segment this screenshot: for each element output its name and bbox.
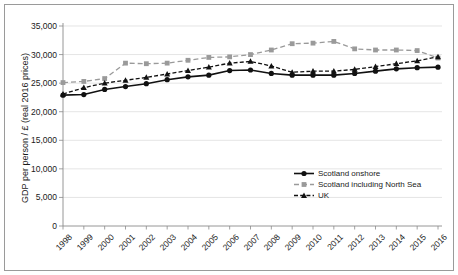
legend-swatch-icon bbox=[293, 168, 315, 179]
data-point bbox=[206, 55, 211, 60]
data-point bbox=[248, 52, 253, 57]
data-point bbox=[415, 65, 420, 70]
plot-area bbox=[5, 5, 455, 272]
legend-label: UK bbox=[318, 191, 329, 200]
chart-figure: GDP per person / £ (real 2016 prices) 35… bbox=[0, 0, 458, 275]
y-tick-label: 10,000 bbox=[11, 164, 57, 174]
data-point bbox=[227, 54, 232, 59]
y-tick-label: 0 bbox=[11, 221, 57, 231]
data-point bbox=[123, 61, 128, 66]
data-point bbox=[144, 81, 149, 86]
data-point bbox=[186, 58, 191, 63]
data-point bbox=[269, 71, 274, 76]
data-point bbox=[61, 80, 66, 85]
chart-legend: Scotland onshoreScotland including North… bbox=[293, 168, 421, 201]
legend-swatch-icon bbox=[293, 190, 315, 201]
data-point bbox=[185, 74, 190, 79]
y-tick-label: 20,000 bbox=[11, 107, 57, 117]
data-point bbox=[290, 41, 295, 46]
legend-label: Scotland including North Sea bbox=[318, 180, 421, 189]
data-point bbox=[268, 63, 274, 69]
data-point bbox=[269, 48, 274, 53]
y-tick-label: 35,000 bbox=[11, 21, 57, 31]
data-point bbox=[227, 60, 233, 66]
data-point bbox=[352, 46, 357, 51]
data-point bbox=[81, 92, 86, 97]
data-point bbox=[81, 85, 87, 91]
data-series-group bbox=[60, 39, 441, 98]
legend-label: Scotland onshore bbox=[318, 169, 380, 178]
data-point bbox=[144, 61, 149, 66]
data-point bbox=[373, 48, 378, 53]
legend-item-2: Scotland including North Sea bbox=[293, 179, 421, 190]
data-point bbox=[394, 48, 399, 53]
series-3 bbox=[60, 54, 441, 97]
legend-item-1: Scotland onshore bbox=[293, 168, 421, 179]
y-tick-label: 30,000 bbox=[11, 50, 57, 60]
data-point bbox=[165, 61, 170, 66]
legend-item-3: UK bbox=[293, 190, 421, 201]
data-point bbox=[248, 67, 253, 72]
data-point bbox=[394, 66, 399, 71]
data-point bbox=[102, 87, 107, 92]
data-point bbox=[206, 73, 211, 78]
y-tick-label: 15,000 bbox=[11, 135, 57, 145]
data-point bbox=[311, 41, 316, 46]
data-point bbox=[185, 67, 191, 73]
data-point bbox=[435, 65, 440, 70]
data-point bbox=[373, 69, 378, 74]
y-tick-label: 5,000 bbox=[11, 192, 57, 202]
data-point bbox=[81, 79, 86, 84]
data-point bbox=[165, 77, 170, 82]
data-point bbox=[227, 68, 232, 73]
legend-swatch-icon bbox=[293, 179, 315, 190]
chart-frame: GDP per person / £ (real 2016 prices) 35… bbox=[4, 4, 454, 271]
data-point bbox=[415, 48, 420, 53]
y-tick-label: 25,000 bbox=[11, 78, 57, 88]
data-point bbox=[331, 39, 336, 44]
data-point bbox=[123, 84, 128, 89]
